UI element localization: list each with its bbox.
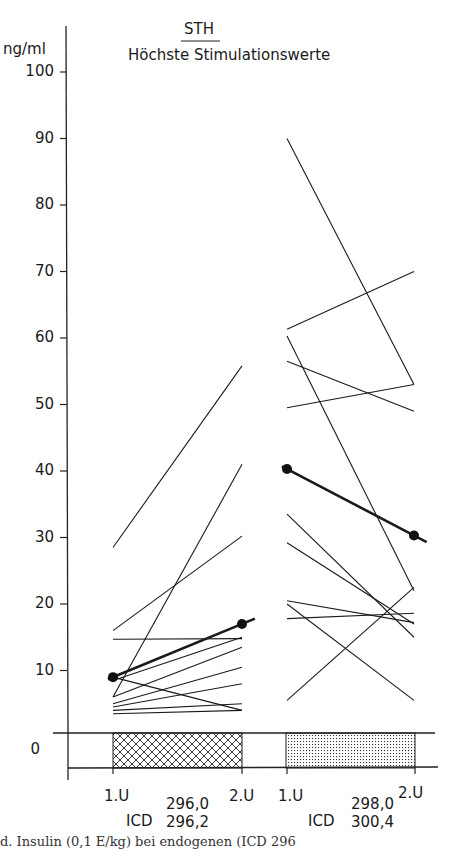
patient-line — [287, 336, 414, 591]
series-left-group — [108, 366, 255, 714]
y-tick-label: 80 — [14, 195, 54, 213]
patient-line — [113, 366, 242, 548]
icd-code-left-2: 296,2 — [166, 813, 209, 831]
y-tick-label: 30 — [14, 528, 54, 546]
y-tick-label: 100 — [14, 62, 54, 80]
patient-line — [287, 272, 414, 330]
x-label-left-1u: 1.U — [104, 787, 129, 805]
patient-line — [113, 639, 242, 640]
patient-line — [113, 464, 242, 697]
patient-line — [113, 704, 242, 711]
chart-plot-area — [0, 0, 454, 851]
mean-point — [108, 672, 118, 682]
y-tick-label: 50 — [14, 395, 54, 413]
x-label-right-1u: 1.U — [278, 787, 303, 805]
patient-line — [287, 385, 414, 408]
bar-left-crosshatch — [113, 733, 242, 768]
y-axis-unit-label: ng/ml — [3, 40, 46, 58]
y-tick-label: 10 — [14, 661, 54, 679]
y-tick-label: 60 — [14, 328, 54, 346]
bar-right-stipple — [286, 733, 415, 768]
x-label-left-2u: 2.U — [229, 787, 254, 805]
patient-line — [287, 361, 414, 411]
y-tick-label: 40 — [14, 461, 54, 479]
figure-caption-fragment: d. Insulin (0,1 E/kg) bei endogenen (ICD… — [0, 834, 454, 851]
patient-line — [113, 637, 242, 680]
icd-code-left-1: 296,0 — [166, 795, 209, 813]
y-tick-label: 90 — [14, 129, 54, 147]
patient-line — [113, 684, 242, 707]
icd-code-right-1: 298,0 — [351, 795, 394, 813]
icd-label-right: ICD — [308, 812, 334, 830]
y-tick-zero: 0 — [0, 740, 40, 758]
patient-line — [113, 677, 242, 710]
patient-line — [113, 710, 242, 713]
icd-label-left: ICD — [126, 812, 152, 830]
y-axis — [66, 26, 68, 733]
chart-title: STH — [184, 20, 214, 38]
chart-subtitle: Höchste Stimulationswerte — [128, 46, 330, 64]
y-tick-label: 20 — [14, 594, 54, 612]
mean-point — [409, 531, 419, 541]
x-label-right-2u: 2.U — [398, 784, 423, 802]
icd-codes-right: 298,0 300,4 — [351, 795, 394, 831]
series-right-group — [282, 139, 427, 701]
y-tick-label: 70 — [14, 262, 54, 280]
patient-line — [287, 139, 414, 385]
patient-line — [113, 536, 242, 630]
icd-codes-left: 296,0 296,2 — [166, 795, 209, 831]
mean-point — [282, 464, 292, 474]
icd-code-right-2: 300,4 — [351, 813, 394, 831]
mean-point — [237, 619, 247, 629]
